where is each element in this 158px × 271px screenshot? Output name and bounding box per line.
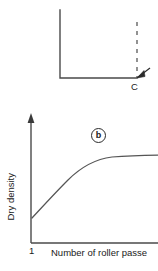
top-chart-arrowhead-icon [137,71,145,79]
bottom-chart-y-axis-label: Dry density [6,167,16,227]
bottom-chart-y-axis-arrowhead-icon [28,113,35,123]
dry-density-curve [32,155,158,218]
figure-container: C 1 Number of roller passe Dry density b [0,0,158,271]
top-chart-group [60,10,150,78]
figure-drawing [0,0,158,271]
top-chart-axes [60,10,137,78]
bottom-chart-panel-letter: b [91,128,106,143]
top-chart-c-label: C [131,82,138,92]
bottom-chart-x-origin-tick-label: 1 [29,246,34,256]
bottom-chart-x-axis-label: Number of roller passe [51,248,147,258]
